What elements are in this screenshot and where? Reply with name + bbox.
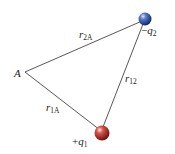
line-r12 (103, 24, 143, 127)
charge-triangle-diagram: A r2A r12 r1A −q2 +q1 (0, 0, 175, 154)
distance-r12-label: r12 (125, 72, 137, 86)
charge-q2-label: −q2 (141, 24, 157, 38)
charge-q1-sphere (95, 126, 110, 141)
line-r1A (25, 72, 100, 130)
line-r2A (25, 21, 142, 72)
point-A-label: A (13, 67, 21, 79)
distance-r2A-label: r2A (79, 28, 93, 42)
distance-r1A-label: r1A (46, 101, 60, 115)
charge-q1-label: +q1 (72, 135, 88, 149)
